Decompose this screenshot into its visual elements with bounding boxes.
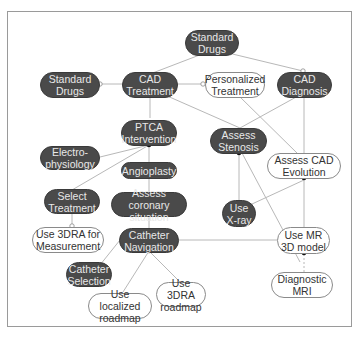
node-catheter-navigation[interactable]: Catheter Navigation xyxy=(119,228,179,253)
node-angioplasty[interactable]: Angioplasty xyxy=(121,162,177,179)
node-use-mr-3d-model[interactable]: Use MR 3D model xyxy=(277,227,330,254)
node-standard-drugs-top[interactable]: Standard Drugs xyxy=(185,30,239,56)
node-use-localized-roadmap[interactable]: Use localized roadmap xyxy=(88,293,152,319)
node-use-3dra-roadmap[interactable]: Use 3DRA roadmap xyxy=(156,282,206,307)
node-cad-treatment[interactable]: CAD Treatment xyxy=(122,72,178,98)
node-use-3dra-measurement[interactable]: Use 3DRA for Measurement xyxy=(32,227,104,253)
node-assess-coronary-situation[interactable]: Assess coronary situation xyxy=(111,192,187,217)
node-assess-cad-evolution[interactable]: Assess CAD Evolution xyxy=(267,153,341,179)
node-catheter-selection[interactable]: Catheter Selection xyxy=(66,262,112,287)
node-select-treatment[interactable]: Select Treatment xyxy=(44,189,100,214)
node-use-xray[interactable]: Use X-ray xyxy=(222,200,256,227)
node-cad-diagnosis[interactable]: CAD Diagnosis xyxy=(277,72,332,98)
node-ptca-intervention[interactable]: PTCA Intervention xyxy=(121,120,177,146)
node-assess-stenosis[interactable]: Assess Stenosis xyxy=(210,128,267,154)
node-personalized-treatment[interactable]: Personalized Treatment xyxy=(205,72,265,98)
node-standard-drugs-left[interactable]: Standard Drugs xyxy=(40,72,100,98)
node-electrophysiology[interactable]: Electro- physiology xyxy=(40,146,100,170)
node-diagnostic-mri[interactable]: Diagnostic MRI xyxy=(271,272,333,298)
